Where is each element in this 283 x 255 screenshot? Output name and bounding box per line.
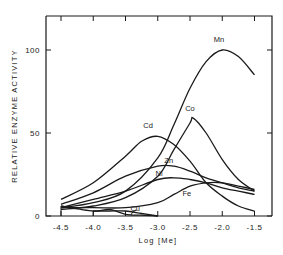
chart: -4.5-4.0-3.5-3.0-2.5-2.0-1.5050100Log [M…	[0, 0, 283, 255]
curves	[61, 50, 255, 216]
series-co-line	[61, 117, 255, 209]
series-label-cu: Cu	[130, 204, 140, 213]
series-label-co: Co	[185, 104, 195, 113]
series-fe-line	[61, 182, 255, 208]
axes: -4.5-4.0-3.5-3.0-2.5-2.0-1.5050100Log [M…	[10, 16, 272, 245]
x-tick-label: -3.0	[150, 223, 166, 232]
series-label-ni: Ni	[155, 169, 162, 178]
y-tick-label: 100	[25, 46, 40, 55]
y-tick-label: 50	[30, 129, 40, 138]
x-tick-label: -4.5	[53, 223, 69, 232]
series-label-zn: Zn	[164, 156, 173, 165]
series-label-mn: Mn	[214, 35, 224, 44]
series-labels: MnCoCdZnNiFeCu	[130, 35, 224, 215]
x-tick-label: -2.0	[214, 223, 230, 232]
series-label-cd: Cd	[143, 121, 153, 130]
x-tick-label: -4.0	[85, 223, 101, 232]
x-axis-title: Log [Me]	[139, 236, 178, 245]
y-axis-title: RELATIVE ENZYME ACTIVITY	[10, 49, 19, 182]
x-tick-label: -1.5	[247, 223, 263, 232]
y-tick-label: 0	[35, 212, 40, 221]
x-tick-label: -2.5	[182, 223, 198, 232]
x-tick-label: -3.5	[118, 223, 134, 232]
series-label-fe: Fe	[182, 189, 191, 198]
